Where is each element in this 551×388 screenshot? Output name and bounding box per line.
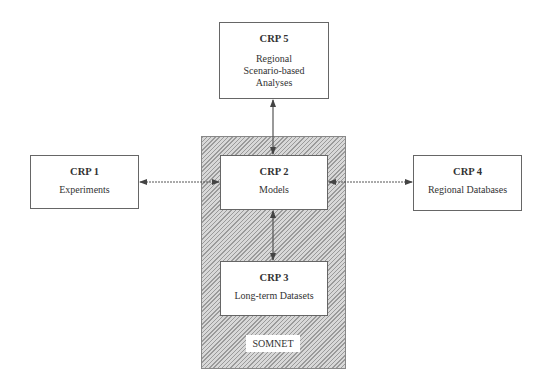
connector-arrows (0, 0, 551, 388)
